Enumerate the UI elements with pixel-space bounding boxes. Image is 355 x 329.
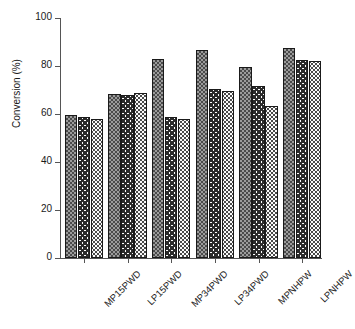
bar <box>309 61 322 258</box>
y-tick: 60 <box>55 114 60 115</box>
x-tick-label: LPNHPW <box>318 268 355 305</box>
bar <box>108 94 121 258</box>
bar <box>134 93 147 258</box>
x-tick-label: MP34PWD <box>189 268 230 309</box>
y-tick-label: 20 <box>41 203 52 214</box>
bar-group <box>152 18 191 258</box>
bar <box>252 86 265 258</box>
y-tick: 20 <box>55 210 60 211</box>
bar <box>65 115 78 258</box>
bar <box>296 60 309 258</box>
bar-group <box>239 18 278 258</box>
y-axis-title: Conversion (%) <box>11 34 22 154</box>
x-axis-line <box>60 258 322 259</box>
y-tick: 80 <box>55 66 60 67</box>
bar <box>239 67 252 258</box>
y-tick-label: 0 <box>46 251 52 262</box>
bar-group <box>283 18 322 258</box>
bar <box>209 89 222 258</box>
x-tick-label: MPNHPW <box>275 268 313 306</box>
bar-group <box>196 18 235 258</box>
x-tick <box>128 258 129 263</box>
bar <box>196 50 209 258</box>
x-tick <box>171 258 172 263</box>
y-tick: 100 <box>55 18 60 19</box>
x-tick <box>84 258 85 263</box>
y-tick: 0 <box>55 258 60 259</box>
x-tick-label: LP15PWD <box>144 268 183 307</box>
plot-area: 020406080100 MP15PWDLP15PWDMP34PWDLP34PW… <box>60 18 322 258</box>
y-axis-line <box>60 18 61 258</box>
y-tick-label: 40 <box>41 155 52 166</box>
x-tick-label: LP34PWD <box>232 268 271 307</box>
bar <box>222 91 235 258</box>
bar-group <box>65 18 104 258</box>
x-tick <box>215 258 216 263</box>
bar <box>165 117 178 258</box>
y-tick-label: 60 <box>41 107 52 118</box>
x-tick <box>302 258 303 263</box>
bar <box>91 119 104 258</box>
bar <box>152 59 165 258</box>
y-tick: 40 <box>55 162 60 163</box>
x-tick <box>259 258 260 263</box>
x-tick-label: MP15PWD <box>102 268 143 309</box>
y-tick-label: 80 <box>41 59 52 70</box>
bar <box>78 117 91 258</box>
bar <box>265 106 278 258</box>
bar <box>283 48 296 258</box>
y-tick-label: 100 <box>35 11 52 22</box>
bar-group <box>108 18 147 258</box>
bar <box>178 119 191 258</box>
bar <box>121 95 134 258</box>
